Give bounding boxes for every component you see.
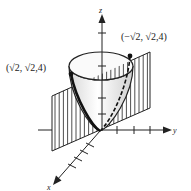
y-axis-arrow-icon — [163, 127, 172, 134]
z-axis-label: z — [98, 6, 103, 15]
z-axis-arrow-icon — [99, 14, 106, 23]
point-label-left: (√2, √2,4) — [6, 62, 46, 74]
point-neg-sqrt2-sqrt2-4 — [128, 54, 133, 59]
diagram-canvas: z y x (√2, √2,4) (−√2, √2,4) — [0, 0, 191, 191]
x-axis-label: x — [46, 183, 51, 191]
point-sqrt2-sqrt2-4 — [69, 72, 74, 77]
x-axis-ticks — [68, 143, 94, 168]
y-axis-label: y — [172, 126, 177, 135]
point-label-right: (−√2, √2,4) — [121, 31, 167, 43]
figure: z y x (√2, √2,4) (−√2, √2,4) — [0, 0, 191, 191]
